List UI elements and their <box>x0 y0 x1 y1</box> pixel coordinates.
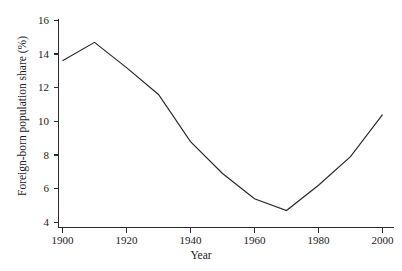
y-tick-label-12: 12 <box>27 81 49 93</box>
y-tick-label-6: 6 <box>27 182 49 194</box>
y-tick-marks <box>54 21 59 223</box>
x-tick-label-1900: 1900 <box>43 234 83 246</box>
plot-area <box>0 0 402 271</box>
x-tick-label-1980: 1980 <box>299 234 339 246</box>
x-tick-marks <box>63 228 383 233</box>
data-series-line <box>63 42 383 210</box>
y-tick-label-10: 10 <box>27 115 49 127</box>
x-tick-label-2000: 2000 <box>363 234 402 246</box>
x-tick-label-1920: 1920 <box>107 234 147 246</box>
chart-figure: 16 14 12 10 8 6 4 1900 1920 1940 1960 19… <box>0 0 402 271</box>
y-tick-label-8: 8 <box>27 149 49 161</box>
y-tick-label-14: 14 <box>27 48 49 60</box>
y-tick-label-16: 16 <box>27 14 49 26</box>
x-axis-title: Year <box>0 249 402 261</box>
x-tick-label-1960: 1960 <box>235 234 275 246</box>
x-tick-label-1940: 1940 <box>171 234 211 246</box>
y-axis-title: Foreign-born population share (%) <box>16 16 28 216</box>
y-tick-label-4: 4 <box>27 216 49 228</box>
